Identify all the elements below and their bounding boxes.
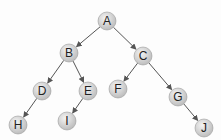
edge-C-G: [149, 63, 172, 90]
node-label: D: [38, 84, 47, 98]
node-A: A: [98, 12, 116, 30]
node-G: G: [169, 88, 187, 106]
edge-D-H: [24, 98, 37, 116]
node-label: H: [14, 118, 23, 132]
node-label: F: [114, 82, 121, 96]
node-F: F: [109, 80, 127, 98]
edge-B-D: [48, 60, 64, 83]
node-label: E: [84, 84, 92, 98]
node-E: E: [79, 82, 97, 100]
node-J: J: [195, 119, 213, 137]
edge-E-I: [73, 98, 83, 112]
node-I: I: [58, 112, 76, 130]
node-label: B: [65, 46, 73, 60]
edge-A-B: [77, 27, 100, 47]
nodes: ABCDEFGHIJ: [9, 12, 213, 137]
node-label: J: [201, 121, 207, 135]
edge-C-F: [124, 63, 138, 81]
node-H: H: [9, 116, 27, 134]
edge-G-J: [184, 104, 198, 120]
node-label: C: [139, 49, 148, 63]
edge-B-E: [73, 61, 84, 82]
edges: [24, 27, 198, 121]
node-label: G: [173, 90, 182, 104]
edge-A-C: [113, 27, 135, 49]
node-C: C: [134, 47, 152, 65]
node-D: D: [33, 82, 51, 100]
tree-diagram: ABCDEFGHIJ: [0, 0, 221, 140]
node-label: I: [65, 114, 68, 128]
node-label: A: [103, 14, 111, 28]
tree-canvas: ABCDEFGHIJ: [0, 0, 221, 140]
node-B: B: [60, 44, 78, 62]
